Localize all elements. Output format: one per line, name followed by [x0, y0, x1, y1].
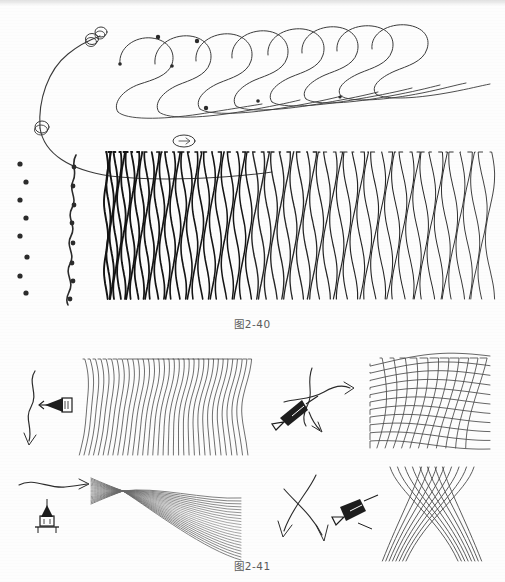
panel-beaded-zigzag-line — [58, 153, 98, 308]
scanned-page: 图2-40 — [0, 0, 505, 582]
panel-dot-column — [10, 158, 50, 308]
pen-nib-diagonal-icon — [272, 396, 318, 430]
pen-nib-diagonal-icon — [332, 495, 378, 529]
panel-bowtie-fan — [5, 463, 255, 568]
figure-2-41: 图2-41 — [0, 345, 505, 582]
figure-2-40-caption: 图2-40 — [0, 316, 505, 331]
figure-2-41-caption: 图2-41 — [0, 558, 505, 573]
panel-crosshatch-grid — [262, 350, 505, 458]
panel-vertical-waves — [5, 353, 255, 461]
panel-x-crossing — [262, 463, 505, 568]
pen-nib-left-icon — [39, 398, 72, 412]
panel-nested-s-curves — [0, 8, 505, 153]
figure-2-40: 图2-40 — [0, 0, 505, 340]
panel-wavy-line-texture-block — [102, 150, 502, 308]
pen-nib-up-icon — [35, 499, 59, 533]
